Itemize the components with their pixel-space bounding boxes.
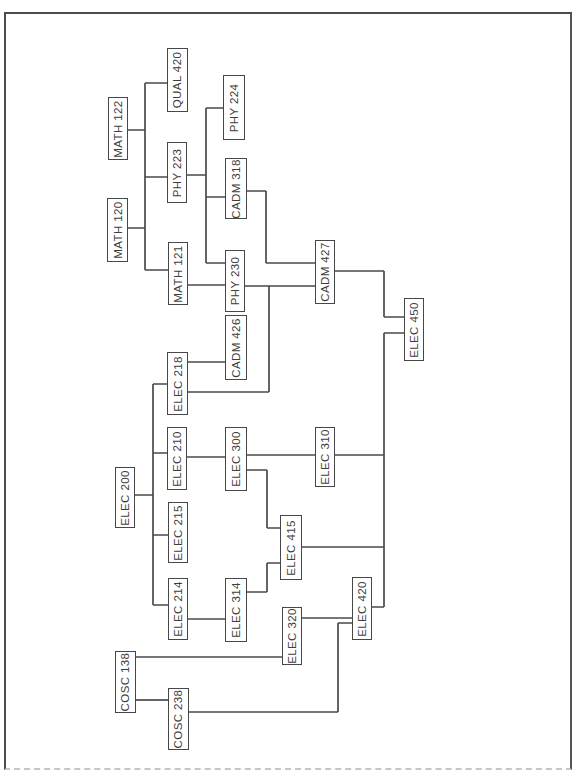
node-elec-310: ELEC 310 <box>315 427 335 487</box>
node-elec-200: ELEC 200 <box>115 467 135 528</box>
prerequisite-chart-page: MATH 122 QUAL 420 PHY 224 MATH 120 PHY 2… <box>0 0 581 780</box>
node-phy-223-label: PHY 223 <box>171 148 183 197</box>
node-math-120: MATH 120 <box>107 198 128 262</box>
node-math-120-label: MATH 120 <box>112 201 124 258</box>
node-elec-218: ELEC 218 <box>167 352 188 415</box>
node-elec-420-label: ELEC 420 <box>356 581 368 637</box>
node-phy-230-label: PHY 230 <box>229 257 241 306</box>
connector-cadm427-elec450 <box>335 271 404 317</box>
node-elec-320-label: ELEC 320 <box>286 608 298 664</box>
node-phy-230: PHY 230 <box>225 250 245 312</box>
connector-elec314-elec415 <box>247 563 280 592</box>
node-cosc-138: COSC 138 <box>115 651 136 713</box>
connector-phy230-elec218-cadm427 <box>188 286 315 392</box>
connector-elec300-elec415 <box>247 470 280 528</box>
node-elec-415: ELEC 415 <box>280 515 302 580</box>
connector-elec200-bus <box>135 384 168 605</box>
node-elec-320: ELEC 320 <box>282 607 302 665</box>
node-elec-214-label: ELEC 214 <box>172 581 184 637</box>
connector-cadm318-cadm427 <box>247 191 315 263</box>
node-elec-210-label: ELEC 210 <box>171 431 183 487</box>
node-phy-223: PHY 223 <box>167 142 187 203</box>
node-cadm-427: CADM 427 <box>315 240 335 304</box>
node-math-121: MATH 121 <box>168 242 188 305</box>
node-elec-310-label: ELEC 310 <box>319 429 331 485</box>
node-cosc-138-label: COSC 138 <box>120 653 132 712</box>
node-qual-420-label: QUAL 420 <box>172 52 184 108</box>
node-cadm-318: CADM 318 <box>225 158 247 219</box>
node-qual-420: QUAL 420 <box>167 48 188 112</box>
node-elec-314-label: ELEC 314 <box>230 582 242 638</box>
node-elec-415-label: ELEC 415 <box>285 520 297 576</box>
node-phy-224-label: PHY 224 <box>228 83 240 132</box>
node-elec-300: ELEC 300 <box>225 427 247 491</box>
node-cadm-426-label: CADM 426 <box>230 318 242 377</box>
node-cosc-238: COSC 238 <box>168 688 189 750</box>
node-elec-200-label: ELEC 200 <box>119 470 131 526</box>
node-cadm-427-label: CADM 427 <box>319 242 331 301</box>
connector-cosc238-elec420 <box>189 623 352 712</box>
node-elec-218-label: ELEC 218 <box>172 356 184 412</box>
connector-math-bus <box>128 83 168 270</box>
node-elec-314: ELEC 314 <box>225 578 247 642</box>
node-math-122: MATH 122 <box>108 97 128 160</box>
node-math-121-label: MATH 121 <box>172 245 184 302</box>
node-elec-215: ELEC 215 <box>168 502 188 563</box>
node-elec-420: ELEC 420 <box>352 577 372 640</box>
node-elec-215-label: ELEC 215 <box>172 505 184 561</box>
connector-phy223-bus <box>187 108 225 263</box>
node-elec-450-label: ELEC 450 <box>408 302 420 358</box>
node-math-122-label: MATH 122 <box>112 100 124 157</box>
node-cadm-318-label: CADM 318 <box>230 159 242 218</box>
node-elec-210: ELEC 210 <box>167 427 187 490</box>
node-cadm-426: CADM 426 <box>225 315 247 380</box>
node-phy-224: PHY 224 <box>223 75 245 140</box>
node-elec-214: ELEC 214 <box>168 578 188 640</box>
node-elec-300-label: ELEC 300 <box>230 431 242 487</box>
node-cosc-238-label: COSC 238 <box>173 690 185 749</box>
node-elec-450: ELEC 450 <box>404 298 424 361</box>
